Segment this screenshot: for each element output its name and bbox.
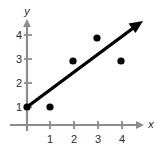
y-axis-label: y — [23, 5, 31, 17]
plot-canvas: 1 2 3 4 1 2 3 4 y x — [0, 0, 157, 152]
trend-line — [27, 26, 136, 107]
x-tick-labels: 1 2 3 4 — [47, 133, 125, 145]
data-point — [46, 103, 53, 110]
data-point — [23, 103, 30, 110]
y-tick-labels: 1 2 3 4 — [16, 29, 22, 113]
x-tick-label-1: 1 — [47, 133, 53, 145]
x-axis-label: x — [147, 118, 154, 130]
data-point — [93, 34, 100, 41]
scatter-plot-figure: 1 2 3 4 1 2 3 4 y x — [0, 0, 157, 152]
y-axis-arrow-icon — [23, 19, 31, 27]
x-tick-label-4: 4 — [119, 133, 125, 145]
y-tick-label-1: 1 — [16, 101, 22, 113]
trend-line-group — [27, 21, 143, 107]
data-point — [117, 57, 124, 64]
x-tick-label-3: 3 — [95, 133, 101, 145]
x-axis-arrow-icon — [136, 121, 144, 129]
y-tick-label-3: 3 — [16, 53, 22, 65]
y-tick-label-2: 2 — [16, 77, 22, 89]
data-point — [69, 57, 76, 64]
y-tick-label-4: 4 — [16, 29, 22, 41]
x-tick-label-2: 2 — [71, 133, 77, 145]
